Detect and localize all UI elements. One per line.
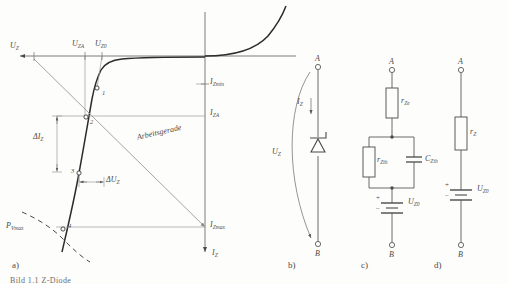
terminal-label-a-b: A xyxy=(315,54,320,63)
circuit-c xyxy=(363,67,422,247)
terminal-label-b-d: B xyxy=(458,250,463,259)
tick-label-izmin: IZmin xyxy=(210,78,224,86)
terminal-b-d xyxy=(458,242,463,247)
point-label-1: 1 xyxy=(102,89,105,96)
x-axis-label: UZ xyxy=(10,42,19,50)
figure-page: UZ UZA UZ0 IZmin IZA IZmax IZ ΔIZ ΔUZ PV… xyxy=(0,0,508,284)
point-label-3: 3 xyxy=(71,167,74,174)
battery-uz0-d xyxy=(450,190,472,200)
uz0-vertical xyxy=(97,56,102,88)
uz-arrow-b xyxy=(292,72,311,238)
terminal-b-b xyxy=(315,241,320,246)
resistor-rz xyxy=(455,117,467,150)
battery-plus-c: + xyxy=(376,194,380,202)
terminal-label-b-b: B xyxy=(315,249,320,258)
pvmax-curve xyxy=(22,212,90,262)
voltage-label-uz-b: UZ xyxy=(272,148,281,156)
battery-minus-c: − xyxy=(376,205,380,213)
tick-label-izmax: IZmax xyxy=(210,221,225,229)
battery-plus-d: + xyxy=(445,181,449,189)
reverse-branch xyxy=(62,57,205,252)
tick-label-iza: IZA xyxy=(210,109,219,117)
operating-point-markers xyxy=(61,86,99,231)
circuit-b xyxy=(292,64,326,246)
source-label-uz0-d: UZ0 xyxy=(477,185,489,193)
tick-label-uza: UZA xyxy=(72,40,84,48)
delta-uz-label: ΔUZ xyxy=(106,176,120,184)
panel-label-a: a) xyxy=(12,260,19,270)
figure-caption-cropped: Bild 1.1 Z-Diode xyxy=(10,276,71,284)
resistor-label-rzth: rZth xyxy=(377,156,387,164)
terminal-label-b-c: B xyxy=(389,250,394,259)
point-label-4: 4 xyxy=(68,222,71,229)
source-label-uz0-c: UZ0 xyxy=(408,198,420,206)
panel-label-c: c) xyxy=(361,260,368,270)
terminal-b-c xyxy=(389,242,394,247)
resistor-label-rze: rZe xyxy=(401,97,410,105)
panel-label-d: d) xyxy=(434,260,442,270)
pvmax-hyperbola xyxy=(22,212,90,262)
arbeitsgerade-line xyxy=(34,59,205,227)
load-line xyxy=(34,59,205,227)
terminal-label-a-c: A xyxy=(389,57,394,66)
battery-minus-d: − xyxy=(445,192,449,200)
terminal-label-a-d: A xyxy=(458,57,463,66)
operating-point-2 xyxy=(84,115,88,119)
diode-triangle xyxy=(311,139,325,152)
operating-point-4 xyxy=(61,227,65,231)
tick-label-uz0: UZ0 xyxy=(95,40,107,48)
operating-point-1 xyxy=(95,86,99,90)
circuit-d xyxy=(450,67,472,247)
battery-uz0-c xyxy=(381,203,403,213)
operating-point-3 xyxy=(77,171,81,175)
pvmax-label: PVmax xyxy=(6,222,23,230)
point-label-2: 2 xyxy=(90,118,93,125)
resistor-rzth xyxy=(363,147,375,177)
resistor-label-rz: rZ xyxy=(470,128,476,136)
terminal-a-c xyxy=(389,67,394,72)
delta-iz-label: ΔIZ xyxy=(33,133,43,141)
y-axis-label: IZ xyxy=(212,249,218,257)
forward-branch xyxy=(205,6,286,56)
panel-label-b: b) xyxy=(288,260,296,270)
construction-lines xyxy=(34,52,209,227)
terminal-a-b xyxy=(315,64,320,69)
node-c-top xyxy=(390,135,393,138)
terminal-a-d xyxy=(458,67,463,72)
current-label-iz-b: IZ xyxy=(297,98,303,106)
capacitor-label-czth: CZth xyxy=(425,155,438,163)
resistor-rze xyxy=(386,88,398,118)
